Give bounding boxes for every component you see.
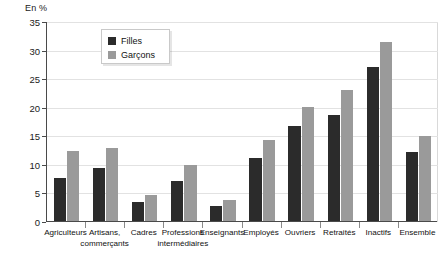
legend: FillesGarçons [101, 29, 170, 64]
y-tick-label: 0 [18, 217, 40, 228]
bar-filles [210, 206, 222, 221]
y-tick-label: 30 [18, 45, 40, 56]
gridline [47, 22, 438, 23]
y-tick-mark [42, 136, 46, 137]
x-tick-label-line: intermédiaires [157, 239, 208, 248]
plot-frame-right [437, 22, 438, 222]
bar-garcons [302, 107, 314, 221]
y-tick-mark [42, 222, 46, 223]
bar-garcons [341, 90, 353, 221]
legend-item: Filles [108, 36, 142, 46]
y-tick-mark [42, 165, 46, 166]
bar-garcons [67, 151, 79, 221]
bar-garcons [106, 148, 118, 221]
y-axis-unit-label: En % [25, 3, 47, 13]
bar-garcons [145, 195, 157, 221]
y-tick-mark [42, 79, 46, 80]
x-tick-label-line: Ensemble [399, 228, 435, 237]
bar-filles [171, 181, 183, 221]
y-tick-mark [42, 193, 46, 194]
y-tick-label: 10 [18, 159, 40, 170]
legend-label: Filles [121, 36, 142, 46]
bar-filles [328, 115, 340, 221]
y-tick-label: 15 [18, 131, 40, 142]
bar-garcons [263, 140, 275, 221]
bar-garcons [419, 136, 431, 221]
bar-filles [249, 158, 261, 221]
bar-filles [367, 67, 379, 221]
bar-filles [288, 126, 300, 221]
y-tick-mark [42, 51, 46, 52]
legend-swatch-icon [108, 37, 116, 45]
bar-filles [132, 202, 144, 221]
y-tick-label: 25 [18, 74, 40, 85]
legend-swatch-icon [108, 51, 116, 59]
y-tick-mark [42, 108, 46, 109]
bar-filles [93, 168, 105, 221]
y-tick-label: 5 [18, 188, 40, 199]
bar-chart: En % 05101520253035 AgriculteursArtisans… [0, 0, 445, 259]
bar-filles [406, 152, 418, 221]
y-tick-mark [42, 22, 46, 23]
legend-item: Garçons [108, 50, 155, 60]
x-tick-label-line: commerçants [80, 239, 129, 248]
bar-garcons [380, 42, 392, 221]
bar-garcons [223, 200, 235, 221]
x-tick-label: Ensemble [387, 228, 445, 239]
y-tick-label: 35 [18, 17, 40, 28]
legend-label: Garçons [121, 50, 155, 60]
bar-filles [54, 178, 66, 221]
bar-garcons [184, 165, 196, 221]
y-tick-label: 20 [18, 102, 40, 113]
